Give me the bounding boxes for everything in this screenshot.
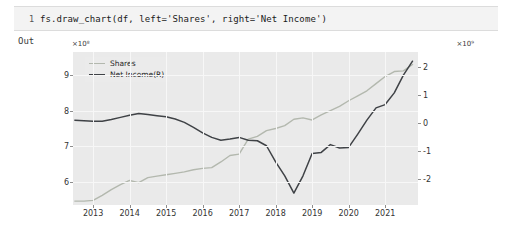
- right-axis-tick-label: 1: [423, 91, 428, 100]
- x-axis-tick-label: 2014: [119, 209, 139, 218]
- chart-figure: ×10⁸ ×10⁹ Shares Net Income(R) 201320142…: [56, 36, 476, 236]
- left-axis-tickmark: [70, 75, 73, 76]
- x-axis-tick-label: 2018: [265, 209, 285, 218]
- right-axis-tick-label: 2: [423, 63, 428, 72]
- left-axis-tick-label: 8: [64, 106, 69, 115]
- x-axis-tick-label: 2017: [229, 209, 249, 218]
- x-axis-tickmark: [166, 205, 167, 208]
- x-axis-tickmark: [276, 205, 277, 208]
- left-axis-tickmark: [70, 111, 73, 112]
- left-axis-tick-label: 6: [64, 177, 69, 186]
- gridline-horizontal: [73, 182, 418, 183]
- code-line-number: 1: [14, 14, 40, 24]
- plot-area: Shares Net Income(R) 2013201420152016201…: [73, 52, 418, 205]
- right-axis-tickmark: [418, 95, 421, 96]
- gridline-horizontal: [73, 111, 418, 112]
- x-axis-tick-label: 2019: [302, 209, 322, 218]
- gridline-horizontal: [73, 146, 418, 147]
- x-axis-tickmark: [130, 205, 131, 208]
- right-axis-tick-label: 0: [423, 118, 428, 127]
- x-axis-tick-label: 2021: [375, 209, 395, 218]
- x-axis-tickmark: [203, 205, 204, 208]
- right-axis-offset-label: ×10⁹: [456, 40, 474, 48]
- code-source-text[interactable]: fs.draw_chart(df, left='Shares', right='…: [40, 14, 327, 24]
- series-line-shares: [75, 64, 413, 201]
- right-axis-tick-label: -1: [423, 146, 431, 155]
- x-axis-tick-label: 2013: [83, 209, 103, 218]
- right-axis-tickmark: [418, 179, 421, 180]
- legend-label-shares: Shares: [110, 59, 136, 68]
- right-axis-tickmark: [418, 151, 421, 152]
- chart-legend: Shares Net Income(R): [85, 57, 170, 82]
- x-axis-tick-label: 2016: [192, 209, 212, 218]
- x-axis-tickmark: [385, 205, 386, 208]
- x-axis-tick-label: 2015: [156, 209, 176, 218]
- right-axis-tick-label: -2: [423, 174, 431, 183]
- x-axis-tick-label: 2020: [338, 209, 358, 218]
- left-axis-offset-label: ×10⁸: [72, 40, 90, 48]
- gridline-horizontal: [73, 75, 418, 76]
- right-axis-tickmark: [418, 67, 421, 68]
- left-axis-tick-label: 9: [64, 71, 69, 80]
- x-axis-tickmark: [349, 205, 350, 208]
- x-axis-tickmark: [312, 205, 313, 208]
- left-axis-tickmark: [70, 146, 73, 147]
- left-axis-tick-label: 7: [64, 142, 69, 151]
- code-cell[interactable]: 1 fs.draw_chart(df, left='Shares', right…: [14, 6, 498, 31]
- legend-item-shares: Shares: [89, 59, 164, 68]
- left-axis-tickmark: [70, 182, 73, 183]
- output-prompt-label: Out: [18, 36, 34, 46]
- x-axis-tickmark: [93, 205, 94, 208]
- x-axis-tickmark: [239, 205, 240, 208]
- legend-line-icon-shares: [89, 63, 105, 64]
- notebook-output-cell: 1 fs.draw_chart(df, left='Shares', right…: [0, 0, 512, 246]
- right-axis-tickmark: [418, 123, 421, 124]
